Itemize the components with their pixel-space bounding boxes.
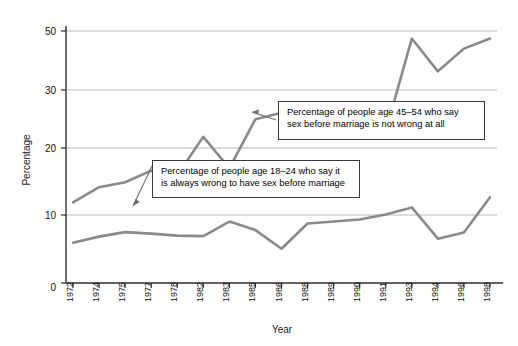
- y-axis-title: Percentage: [21, 134, 32, 186]
- y-tick-label-10: 10: [45, 210, 57, 221]
- callout-leader-lower: [133, 162, 154, 206]
- x-tick-label-1988: 1988: [300, 282, 310, 302]
- x-tick-label-1977: 1977: [143, 282, 153, 302]
- y-tick-label-0: 0: [50, 282, 56, 293]
- x-tick-label-1978: 1978: [169, 282, 179, 302]
- chart-container: 50 30 20 10 0 Percentage 197219741975197…: [0, 0, 518, 346]
- x-tick-label-1974: 1974: [91, 282, 101, 302]
- callout-upper-45-54: Percentage of people age 45–54 who say s…: [278, 101, 485, 140]
- x-tick-label-1993: 1993: [404, 282, 414, 302]
- x-tick-label-1989: 1989: [326, 282, 336, 302]
- y-tick-label-20: 20: [45, 143, 57, 154]
- callout-lower-18-24: Percentage of people age 18–24 who say i…: [152, 160, 360, 198]
- y-axis-ticks: [61, 31, 66, 283]
- x-tick-label-1975: 1975: [117, 282, 127, 302]
- x-tick-label-1998: 1998: [482, 282, 492, 302]
- x-tick-label-1972: 1972: [65, 282, 75, 302]
- x-tick-label-1991: 1991: [378, 282, 388, 302]
- x-axis-title: Year: [272, 324, 293, 335]
- x-tick-label-1982: 1982: [195, 282, 205, 302]
- data-series-group: [73, 39, 490, 249]
- x-tick-label-1994: 1994: [430, 282, 440, 302]
- series-line-age-18-24: [73, 197, 490, 248]
- x-axis-ticks: 1972197419751977197819821983198519861988…: [65, 282, 492, 302]
- y-tick-label-30: 30: [45, 85, 57, 96]
- x-tick-label-1985: 1985: [247, 282, 257, 302]
- x-tick-label-1996: 1996: [456, 282, 466, 302]
- y-tick-label-50: 50: [45, 26, 57, 37]
- x-tick-label-1990: 1990: [352, 282, 362, 302]
- x-tick-label-1986: 1986: [274, 282, 284, 302]
- x-tick-label-1983: 1983: [221, 282, 231, 302]
